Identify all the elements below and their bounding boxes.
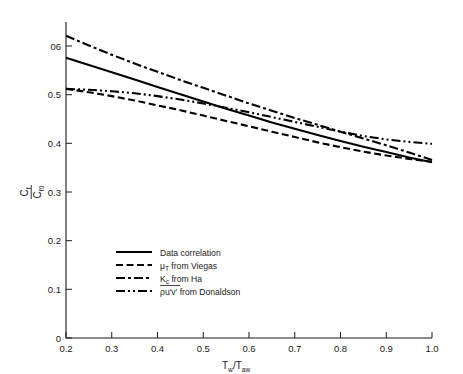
x-tick-label: 0.2 bbox=[59, 343, 72, 354]
legend-label-rho-rest: from Donaldson bbox=[177, 287, 240, 297]
legend-label-mu-t-viegas: μT from Viegas bbox=[160, 261, 217, 272]
data-series-line bbox=[66, 58, 432, 163]
x-tick-label: 0.5 bbox=[197, 343, 210, 354]
x-tick-label: 0.6 bbox=[242, 343, 255, 354]
svg-text:Cf: Cf bbox=[19, 187, 32, 196]
y-axis-title-num-sub: f bbox=[25, 187, 32, 189]
y-axis-title: Cf Cf0 bbox=[19, 185, 45, 199]
y-tick-label: 0.4 bbox=[48, 138, 61, 149]
y-tick-label: 0.2 bbox=[48, 235, 61, 246]
chart-legend: Data correlation μT from Viegas Kc from … bbox=[116, 248, 241, 297]
x-tick-label: 1.0 bbox=[425, 343, 438, 354]
y-tick-label: 0.5 bbox=[48, 89, 61, 100]
y-axis-title-den-sub2: 0 bbox=[38, 185, 45, 189]
y-tick-label: 06 bbox=[50, 41, 61, 52]
legend-label-data-correlation: Data correlation bbox=[160, 248, 221, 258]
x-tick-label: 0.9 bbox=[380, 343, 393, 354]
x-tick-marks bbox=[66, 332, 432, 338]
svg-text:Cf0: Cf0 bbox=[32, 185, 45, 198]
legend-label-kc-rest: from Ha bbox=[169, 274, 202, 284]
x-tick-label: 0.8 bbox=[334, 343, 347, 354]
legend-label-mu-t-rest: from Viegas bbox=[169, 261, 217, 271]
legend-label-rho-base: ρu'v' bbox=[160, 287, 178, 297]
y-axis-title-num-base: C bbox=[19, 189, 30, 196]
y-axis-title-den-base: C bbox=[32, 191, 43, 198]
y-tick-label: 0 bbox=[56, 333, 61, 344]
data-curves bbox=[66, 36, 432, 163]
svg-text:Tw/Taw: Tw/Taw bbox=[222, 360, 250, 373]
x-tick-label: 0.3 bbox=[105, 343, 118, 354]
y-tick-label: 0.3 bbox=[48, 187, 61, 198]
x-axis-title-sub2: aw bbox=[242, 366, 251, 373]
chart-canvas: 0 0.1 0.2 0.3 0.4 0.5 06 0.2 0.3 0.4 0.5 bbox=[0, 0, 463, 374]
legend-label-rho-uv-donaldson: ρu'v' from Donaldson bbox=[160, 287, 241, 297]
x-tick-label: 0.4 bbox=[151, 343, 164, 354]
y-tick-label: 0.1 bbox=[48, 284, 61, 295]
x-axis-title: Tw/Taw bbox=[222, 360, 250, 373]
y-tick-labels: 0 0.1 0.2 0.3 0.4 0.5 06 bbox=[48, 41, 61, 344]
legend-label-kc-ha: Kc from Ha bbox=[160, 274, 202, 285]
figure-container: 0 0.1 0.2 0.3 0.4 0.5 06 0.2 0.3 0.4 0.5 bbox=[0, 0, 463, 374]
x-tick-labels: 0.2 0.3 0.4 0.5 0.6 0.7 0.8 0.9 1.0 bbox=[59, 343, 438, 354]
x-tick-label: 0.7 bbox=[288, 343, 301, 354]
